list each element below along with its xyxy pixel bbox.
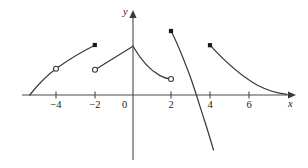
open-circle-minus4	[54, 66, 59, 71]
curve-branch-3	[171, 31, 214, 150]
curve-branch-2-segment	[95, 46, 133, 69]
tick-label-4: 4	[198, 100, 222, 111]
closed-dot-4	[208, 43, 212, 47]
curve-branch-4	[210, 45, 287, 94]
y-axis-label: y	[123, 7, 128, 18]
tick-label-minus4: −4	[44, 100, 68, 111]
origin-label: 0	[122, 100, 127, 111]
y-axis-arrowhead	[129, 10, 136, 18]
curve-branch-2-decay	[133, 46, 171, 79]
tick-label-6: 6	[237, 100, 261, 111]
closed-dot-minus2	[93, 43, 97, 47]
graph-figure: −4 −2 2 4 6 0 y x	[0, 0, 308, 168]
curve-branch-1	[30, 45, 95, 95]
open-endpoint-markers	[54, 66, 174, 81]
closed-dot-2	[169, 29, 173, 33]
tick-label-2: 2	[159, 100, 183, 111]
open-circle-minus2	[93, 67, 98, 72]
x-axis-label: x	[288, 99, 293, 110]
piecewise-function-plot	[0, 0, 308, 168]
tick-label-minus2: −2	[83, 100, 107, 111]
open-circle-2	[169, 77, 174, 82]
closed-endpoint-markers	[93, 29, 212, 47]
